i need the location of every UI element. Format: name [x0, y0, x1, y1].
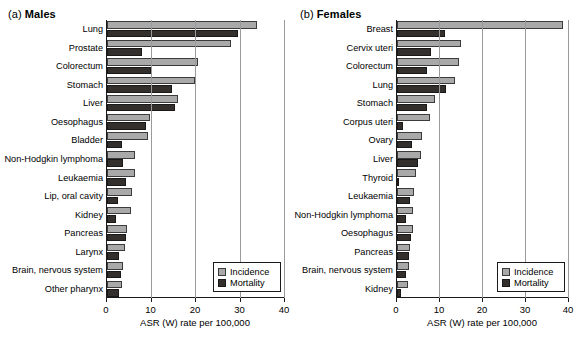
bar-mortality — [107, 104, 175, 112]
bar-incidence — [397, 281, 408, 289]
bar-incidence — [107, 58, 198, 66]
bar-incidence — [107, 114, 150, 122]
bar-incidence — [397, 225, 413, 233]
category-label: Stomach — [357, 98, 393, 108]
bar-mortality — [397, 159, 418, 167]
bar-incidence — [397, 151, 421, 159]
x-tick — [195, 298, 196, 302]
bar-mortality — [107, 178, 126, 186]
category-label: Cervix uteri — [347, 43, 393, 53]
legend-females: Incidence Mortality — [497, 262, 565, 292]
bar-incidence — [107, 207, 131, 215]
bar-incidence — [107, 40, 231, 48]
plot-area-males: LungProstateColorectumStomachLiverOesoph… — [106, 20, 284, 298]
bar-mortality — [107, 48, 142, 56]
legend-label-incidence: Incidence — [514, 267, 553, 277]
bar-incidence — [397, 21, 563, 29]
x-tick — [568, 298, 569, 302]
category-label: Breast — [366, 24, 393, 34]
bar-incidence — [397, 114, 430, 122]
gridline — [568, 20, 569, 298]
category-label: Liver — [83, 98, 103, 108]
legend-males: Incidence Mortality — [213, 262, 281, 292]
bar-incidence — [107, 244, 125, 252]
panel-a-title: (a)Males — [8, 8, 56, 20]
bar-mortality — [397, 215, 406, 223]
panel-females: (b)Females BreastCervix uteriColorectumL… — [292, 0, 584, 345]
x-axis-label-males: ASR (W) rate per 100,000 — [140, 317, 250, 328]
x-tick — [439, 298, 440, 302]
bar-incidence — [107, 262, 123, 270]
bar-mortality — [397, 197, 410, 205]
bar-mortality — [107, 252, 119, 260]
bar-incidence — [107, 225, 127, 233]
bar-incidence — [397, 40, 461, 48]
x-tick — [525, 298, 526, 302]
bar-mortality — [397, 252, 409, 260]
bar-incidence — [397, 188, 414, 196]
category-label: Kidney — [365, 284, 393, 294]
category-label: Pancreas — [64, 228, 103, 238]
x-ticklabel: 30 — [520, 304, 531, 315]
bar-mortality — [107, 197, 118, 205]
x-ticklabel: 10 — [434, 304, 445, 315]
x-ticklabel: 20 — [477, 304, 488, 315]
legend-label-incidence: Incidence — [230, 267, 269, 277]
bar-mortality — [397, 178, 399, 186]
category-label: Stomach — [67, 80, 103, 90]
x-tick — [482, 298, 483, 302]
category-label: Larynx — [75, 247, 103, 257]
panel-males: (a)Males LungProstateColorectumStomachLi… — [0, 0, 292, 345]
category-label: Oesophagus — [51, 117, 103, 127]
bar-incidence — [397, 244, 410, 252]
legend-swatch-incidence-icon — [502, 268, 510, 276]
bar-incidence — [397, 95, 435, 103]
bar-mortality — [397, 48, 431, 56]
panel-b-tag: (b) — [300, 8, 314, 20]
gridline — [151, 20, 152, 298]
x-ticklabel: 20 — [190, 304, 201, 315]
bar-mortality — [397, 104, 427, 112]
bar-mortality — [107, 215, 116, 223]
x-tick — [151, 298, 152, 302]
category-label: Pancreas — [354, 247, 393, 257]
bar-mortality — [397, 141, 412, 149]
bar-incidence — [107, 169, 135, 177]
legend-swatch-mortality-icon — [218, 279, 226, 287]
bar-mortality — [397, 30, 445, 38]
x-ticklabel: 40 — [563, 304, 574, 315]
x-ticklabel: 0 — [103, 304, 108, 315]
category-label: Leukaemia — [348, 191, 393, 201]
bar-mortality — [107, 30, 238, 38]
x-ticklabel: 0 — [393, 304, 398, 315]
legend-label-mortality: Mortality — [230, 278, 265, 288]
category-label: Non-Hodgkin lymphoma — [294, 210, 393, 220]
bar-mortality — [397, 271, 406, 279]
legend-swatch-mortality-icon — [502, 279, 510, 287]
x-ticklabel: 40 — [279, 304, 290, 315]
category-label: Ovary — [368, 135, 393, 145]
category-label: Colorectum — [346, 61, 393, 71]
category-label: Bladder — [71, 135, 103, 145]
category-label: Colorectum — [56, 61, 103, 71]
bar-mortality — [397, 234, 411, 242]
x-tick — [106, 298, 107, 302]
bar-mortality — [397, 289, 401, 297]
category-label: Liver — [373, 154, 393, 164]
bar-incidence — [397, 132, 422, 140]
category-label: Kidney — [75, 210, 103, 220]
x-tick — [240, 298, 241, 302]
x-ticklabel: 10 — [145, 304, 156, 315]
x-ticklabel: 30 — [234, 304, 245, 315]
category-label: Other pharynx — [45, 284, 103, 294]
category-label: Corpus uteri — [343, 117, 393, 127]
bar-incidence — [107, 132, 148, 140]
category-label: Thyroid — [362, 173, 393, 183]
category-label: Lung — [373, 80, 393, 90]
panel-a-name: Males — [25, 8, 56, 20]
category-label: Non-Hodgkin lymphoma — [4, 154, 103, 164]
legend-item-incidence: Incidence — [218, 266, 275, 277]
x-axis-label-females: ASR (W) rate per 100,000 — [427, 317, 537, 328]
gridline — [240, 20, 241, 298]
gridline — [482, 20, 483, 298]
